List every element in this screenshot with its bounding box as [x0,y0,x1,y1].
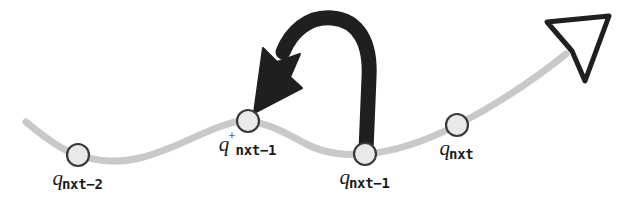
node-label-q-nxt: qnxt [440,138,475,159]
node-symbol: q [52,166,63,190]
node-subscript: nxt−2 [62,176,103,192]
heading-arrowhead-icon [547,16,609,81]
node-q-nxt-minus-2 [67,144,89,166]
node-symbol: q [339,165,350,189]
node-subscript: nxt−1 [349,175,390,191]
node-label-q-nxt-minus-1-plus: q+nxt−1 [219,134,278,155]
node-symbol: q [440,136,451,160]
configuration-path-curve [26,54,566,161]
node-subscript: nxt−1 [236,142,277,158]
trajectory-diagram: qnxt−2 q+nxt−1 qnxt−1 qnxt [0,0,629,209]
node-q-nxt-minus-1-plus [237,110,259,132]
node-label-q-nxt-minus-1: qnxt−1 [339,167,390,188]
node-q-nxt [446,114,468,136]
node-q-nxt-minus-1 [354,143,376,165]
node-subscript: nxt [449,146,473,162]
node-label-q-nxt-minus-2: qnxt−2 [52,168,103,189]
node-symbol: q [219,132,230,156]
retraction-arrowhead [254,48,302,113]
node-superscript: + [228,128,235,143]
